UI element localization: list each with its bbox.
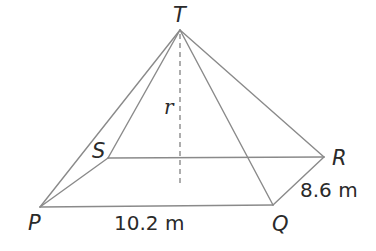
height-label-r: r (164, 95, 175, 119)
pyramid-diagram: T S R P Q r 10.2 m 8.6 m (0, 0, 376, 251)
edge-PS (40, 158, 108, 207)
vertex-label-S: S (92, 139, 105, 163)
measurement-QR: 8.6 m (300, 178, 358, 202)
edge-TP (40, 30, 180, 207)
edge-TQ (180, 30, 273, 205)
edge-TR (180, 30, 324, 157)
vertex-label-T: T (173, 3, 188, 27)
vertex-label-Q: Q (272, 212, 289, 236)
edge-SR (108, 157, 324, 158)
vertex-label-P: P (28, 211, 41, 235)
edge-PQ (40, 205, 273, 207)
edge-TS (108, 30, 180, 158)
vertex-label-R: R (332, 146, 347, 170)
measurement-PQ: 10.2 m (114, 211, 184, 235)
